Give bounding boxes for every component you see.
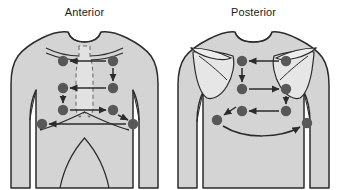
point-2 (281, 56, 291, 66)
point-2 (108, 56, 118, 66)
anterior-torso-diagram (0, 0, 169, 190)
point-4 (281, 84, 291, 94)
point-3 (58, 83, 68, 93)
trachea-sternum (76, 46, 93, 117)
point-7 (37, 119, 47, 129)
point-6 (108, 105, 118, 115)
point-6 (281, 106, 291, 116)
point-1 (58, 56, 68, 66)
point-3 (237, 84, 247, 94)
point-4 (108, 83, 118, 93)
point-7 (212, 115, 222, 125)
posterior-torso-diagram (169, 0, 338, 190)
point-1 (237, 56, 247, 66)
chest-examination-figure: Anterior (0, 0, 338, 190)
posterior-panel: Posterior (169, 0, 338, 190)
point-8 (302, 118, 312, 128)
point-5 (58, 105, 68, 115)
anterior-panel: Anterior (0, 0, 169, 190)
point-8 (128, 119, 138, 129)
point-5 (237, 106, 247, 116)
